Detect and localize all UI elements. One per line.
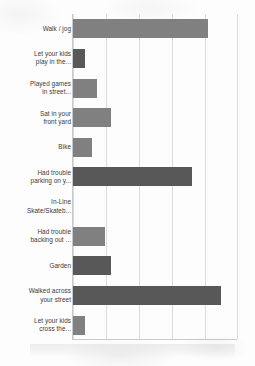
category-label: Sat in yourfront yard <box>5 110 71 126</box>
category-label-line: Garden <box>5 262 71 270</box>
bar-row: Sat in yourfront yard <box>0 103 255 133</box>
category-label-line: your street <box>5 296 71 304</box>
bar-row: Let your kidsplay in the... <box>0 44 255 74</box>
bar-row: Bike <box>0 133 255 163</box>
bar <box>73 138 92 157</box>
bar-row: Had troubleparking on y... <box>0 162 255 192</box>
bar-row: Let your kidscross the... <box>0 310 255 340</box>
category-label-line: In-Line <box>5 198 71 206</box>
category-label: In-LineSkate/Skateb... <box>5 198 71 214</box>
category-label: Walk / jog <box>5 25 71 33</box>
bar <box>73 108 111 127</box>
category-label: Had troublebacking out ... <box>5 228 71 244</box>
bar-row: Walk / jog <box>0 14 255 44</box>
page-smudge <box>30 344 235 358</box>
bar-row: Garden <box>0 251 255 281</box>
category-label: Let your kidsplay in the... <box>5 50 71 66</box>
bar-row: Had troublebacking out ... <box>0 221 255 251</box>
bar <box>73 19 208 38</box>
bar <box>73 256 111 275</box>
category-label-line: parking on y... <box>5 177 71 185</box>
bar <box>73 79 97 98</box>
category-label-line: play in the... <box>5 58 71 66</box>
bar-rows: Walk / jogLet your kidsplay in the...Pla… <box>0 14 255 340</box>
bar <box>73 227 105 246</box>
category-label-line: Had trouble <box>5 228 71 236</box>
bar <box>73 316 85 335</box>
category-label-line: cross the... <box>5 325 71 333</box>
bar <box>73 167 192 186</box>
category-label-line: in street... <box>5 88 71 96</box>
category-label: Walked acrossyour street <box>5 287 71 303</box>
bar-row: In-LineSkate/Skateb... <box>0 192 255 222</box>
category-label-line: Sat in your <box>5 110 71 118</box>
category-label-line: Walked across <box>5 287 71 295</box>
bar <box>73 49 85 68</box>
category-label: Let your kidscross the... <box>5 317 71 333</box>
category-label-line: Bike <box>5 143 71 151</box>
bar <box>73 286 221 305</box>
category-label: Played gamesin street... <box>5 80 71 96</box>
category-label-line: Skate/Skateb... <box>5 207 71 215</box>
category-label-line: Let your kids <box>5 50 71 58</box>
category-label: Bike <box>5 143 71 151</box>
category-label: Had troubleparking on y... <box>5 169 71 185</box>
category-label-line: Walk / jog <box>5 25 71 33</box>
bar-row: Played gamesin street... <box>0 73 255 103</box>
category-label-line: front yard <box>5 118 71 126</box>
category-label-line: Let your kids <box>5 317 71 325</box>
bar-chart: Walk / jogLet your kidsplay in the...Pla… <box>0 0 255 366</box>
bar-row: Walked acrossyour street <box>0 281 255 311</box>
category-label: Garden <box>5 262 71 270</box>
category-label-line: backing out ... <box>5 236 71 244</box>
category-label-line: Played games <box>5 80 71 88</box>
category-label-line: Had trouble <box>5 169 71 177</box>
